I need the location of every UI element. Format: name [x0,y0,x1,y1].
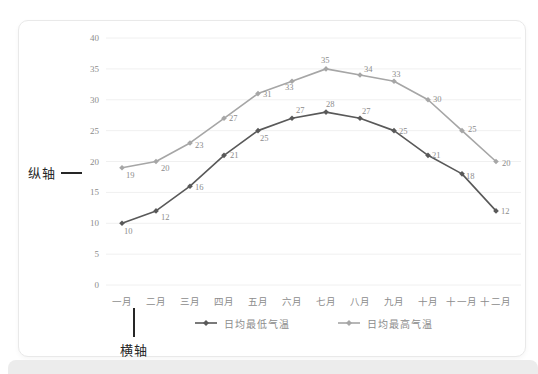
x-tick-label: 六月 [282,296,303,307]
x-tick-label: 一月 [112,297,133,307]
horizontal-axis-label: 横轴 [115,340,153,359]
data-label: 31 [263,89,272,99]
data-label: 25 [399,126,408,136]
data-label: 21 [230,150,239,160]
y-tick-label: 30 [90,95,100,105]
legend-item-max-temp: 日均最高气温 [338,316,433,331]
data-label: 20 [161,163,170,173]
legend-label-min-temp: 日均最低气温 [224,316,290,331]
data-point [357,115,363,121]
y-tick-label: 10 [90,218,100,228]
data-label: 27 [229,113,238,123]
line-chart: 0510152025303540一月二月三月四月五月六月七月八月九月十月十一月十… [19,21,525,356]
data-label: 10 [124,226,133,236]
data-label: 20 [502,158,511,168]
x-tick-label: 八月 [350,297,371,307]
x-tick-label: 五月 [248,297,269,307]
x-tick-label: 四月 [214,297,235,307]
legend-marker-min-icon [195,319,217,327]
y-tick-label: 15 [90,187,100,197]
chart-legend: 日均最低气温 日均最高气温 [106,315,521,331]
data-label: 33 [392,69,401,79]
data-label: 12 [501,206,510,216]
y-tick-label: 0 [95,280,100,290]
data-point [323,66,329,72]
legend-marker-max-icon [338,319,360,327]
x-tick-label: 二月 [146,297,167,307]
x-tick-label: 十一月 [446,296,478,307]
x-tick-label: 七月 [316,297,337,307]
vertical-axis-pointer-line [61,172,82,174]
data-label: 35 [321,55,330,65]
data-point [357,72,363,78]
data-label: 28 [326,99,335,109]
data-label: 21 [432,150,441,160]
data-point [323,109,329,115]
data-label: 30 [433,94,442,104]
y-tick-label: 40 [90,33,100,43]
y-tick-label: 35 [90,64,100,74]
data-label: 27 [362,106,371,116]
data-label: 33 [285,82,294,92]
y-tick-label: 25 [90,126,100,136]
y-tick-label: 5 [95,249,100,259]
series-line-0 [122,112,496,223]
x-tick-label: 十月 [418,296,439,307]
x-tick-label: 九月 [384,296,405,307]
chart-card: 0510152025303540一月二月三月四月五月六月七月八月九月十月十一月十… [18,20,526,357]
data-label: 19 [126,170,135,180]
data-label: 25 [468,124,477,134]
x-tick-label: 十二月 [480,296,512,307]
data-point [119,165,125,171]
x-tick-label: 三月 [180,297,201,307]
data-label: 18 [466,171,475,181]
data-point [289,115,295,121]
data-label: 12 [161,212,170,222]
data-label: 23 [195,140,204,150]
legend-item-min-temp: 日均最低气温 [195,316,290,331]
horizontal-axis-pointer-line [133,308,135,337]
data-label: 27 [296,105,305,115]
vertical-axis-callout: 纵轴 [28,163,82,182]
data-point [119,220,125,226]
data-label: 16 [195,182,204,192]
y-tick-label: 20 [90,157,100,167]
vertical-axis-label: 纵轴 [28,163,56,182]
legend-label-max-temp: 日均最高气温 [367,316,433,331]
bottom-strip [8,360,538,374]
data-label: 34 [364,64,373,74]
data-label: 25 [260,133,269,143]
